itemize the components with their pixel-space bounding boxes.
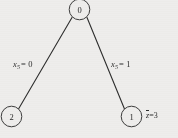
- node-left[interactable]: 2: [1, 106, 22, 127]
- node-right[interactable]: 1: [121, 106, 142, 127]
- edge-label-left-value: 0: [28, 59, 32, 69]
- figure-canvas: 0 2 1 x5= 0 x5= 1 z=3: [0, 0, 178, 138]
- node-right-label: 1: [129, 112, 133, 122]
- edge-label-left-equals: =: [20, 59, 26, 69]
- edge-label-right-equals: =: [118, 59, 124, 69]
- node-root[interactable]: 0: [69, 0, 90, 20]
- node-left-label: 2: [9, 112, 13, 122]
- edge-label-left-branch: x5= 0: [13, 59, 32, 70]
- edge-label-right-value: 1: [126, 59, 130, 69]
- bound-value: 3: [154, 111, 158, 120]
- edge-label-right-branch: x5= 1: [111, 59, 130, 70]
- bound-annotation: z=3: [146, 111, 158, 120]
- node-root-label: 0: [77, 5, 81, 15]
- bound-symbol: z: [146, 111, 149, 120]
